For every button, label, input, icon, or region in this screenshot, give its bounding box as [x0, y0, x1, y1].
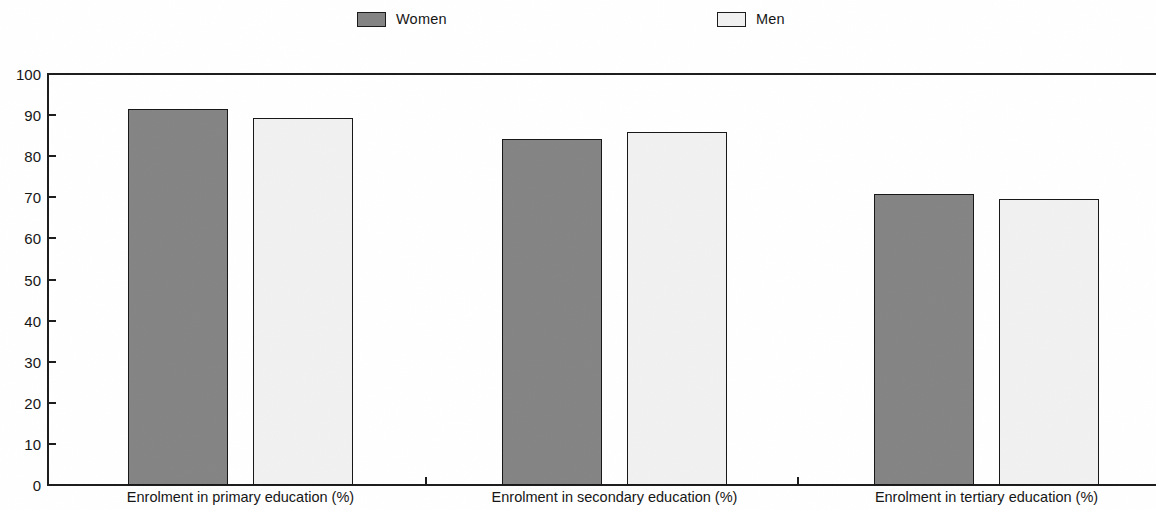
- legend-label-women: Women: [396, 11, 447, 27]
- y-axis-tick-label: 100: [16, 67, 41, 82]
- y-axis-tick-label: 30: [24, 354, 41, 369]
- bar-men-group-3: [999, 199, 1099, 485]
- y-axis-tick-label: 10: [24, 436, 41, 451]
- legend-label-men: Men: [756, 11, 785, 27]
- y-axis-tick-label: 60: [24, 231, 41, 246]
- bar-chart: Women Men 0102030405060708090100 Enrolme…: [0, 0, 1156, 510]
- bar-men-group-2: [627, 132, 727, 485]
- x-axis-group-separator-tick: [425, 477, 427, 485]
- y-axis-tick-label: 50: [24, 272, 41, 287]
- x-axis-category-label: Enrolment in secondary education (%): [492, 489, 738, 505]
- chart-legend: Women Men: [0, 6, 1156, 32]
- bar-women-group-2: [502, 139, 602, 485]
- plot-area: [49, 74, 1156, 485]
- y-axis-labels: 0102030405060708090100: [0, 0, 41, 510]
- x-axis-group-separator-tick: [797, 477, 799, 485]
- legend-item-women: Women: [357, 6, 447, 32]
- y-axis-tick-label: 70: [24, 190, 41, 205]
- legend-swatch-women-icon: [357, 12, 386, 27]
- y-axis-tick-label: 80: [24, 149, 41, 164]
- bar-women-group-3: [874, 194, 974, 485]
- bar-men-group-1: [253, 118, 353, 485]
- legend-swatch-men-icon: [717, 12, 746, 27]
- legend-item-men: Men: [717, 6, 785, 32]
- x-axis-category-label: Enrolment in tertiary education (%): [875, 489, 1098, 505]
- y-axis-tick-label: 0: [33, 478, 41, 493]
- y-axis-tick-label: 40: [24, 313, 41, 328]
- y-axis-tick-label: 20: [24, 395, 41, 410]
- x-axis-category-label: Enrolment in primary education (%): [127, 489, 354, 505]
- y-axis-tick-label: 90: [24, 108, 41, 123]
- bar-women-group-1: [128, 109, 228, 485]
